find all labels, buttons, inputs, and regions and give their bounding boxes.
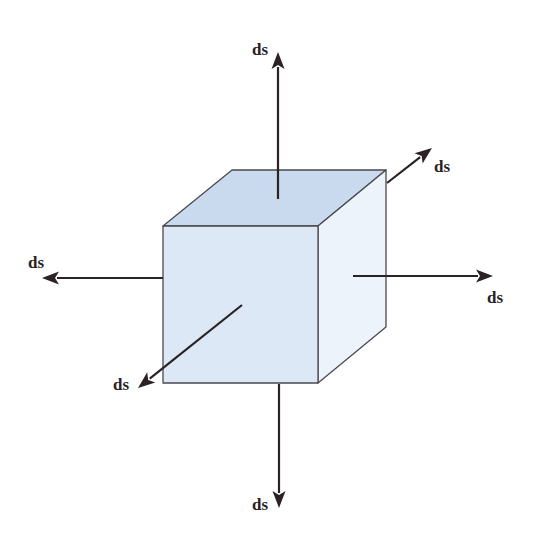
arrow-bottom: ds — [252, 384, 286, 514]
ds-label-right: ds — [487, 288, 503, 307]
arrowhead-icon — [42, 272, 59, 285]
arrow-back-right: ds — [387, 148, 450, 183]
cube — [163, 170, 386, 383]
ds-label-bottom: ds — [252, 495, 268, 514]
cube-surface-vector-diagram: ds ds ds ds ds ds — [0, 0, 533, 542]
arrowhead-icon — [415, 148, 432, 164]
ds-label-front-left: ds — [113, 375, 129, 394]
arrowhead-icon — [273, 491, 286, 508]
ds-label-back-right: ds — [434, 157, 450, 176]
arrow-back-right-shaft — [387, 157, 420, 183]
arrowhead-icon — [138, 372, 155, 388]
ds-label-top: ds — [252, 40, 268, 59]
arrow-left: ds — [28, 253, 163, 285]
arrowhead-icon — [476, 270, 493, 283]
ds-label-left: ds — [28, 253, 44, 272]
cube-front-face — [163, 226, 318, 383]
arrowhead-icon — [272, 52, 285, 69]
